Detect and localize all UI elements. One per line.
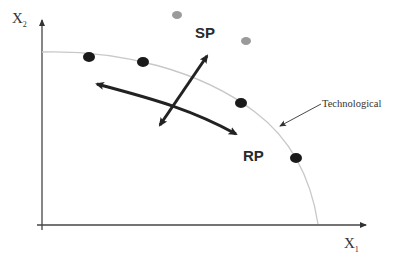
y-axis-label: X2 — [12, 10, 27, 29]
sp-straight-arrow — [160, 56, 207, 125]
technological-label: Technological — [322, 98, 381, 109]
gray-point — [241, 37, 251, 45]
x-axis-label: X1 — [344, 235, 359, 254]
technological-frontier-curve — [42, 52, 318, 224]
sp-label: SP — [195, 24, 215, 41]
rp-curved-arrow — [97, 84, 236, 134]
rp-label: RP — [243, 147, 264, 164]
frontier-points — [83, 52, 302, 163]
frontier-point — [137, 57, 149, 67]
gray-point — [172, 11, 182, 19]
technological-callout-arrow — [280, 104, 321, 126]
frontier-point — [235, 98, 247, 108]
frontier-point — [290, 153, 302, 163]
frontier-point — [83, 52, 95, 62]
ppf-diagram: X2 X1 Technological SP RP — [0, 0, 395, 265]
